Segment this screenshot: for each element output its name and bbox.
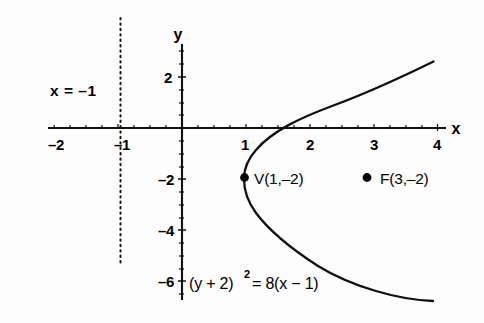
vertex-point [240, 173, 249, 182]
x-axis-label: x [452, 120, 461, 137]
y-tick-label-2: 2 [164, 69, 172, 86]
equation-lhs: (y + 2) [189, 275, 233, 292]
x-tick-label--2: –2 [48, 136, 64, 153]
x-tick-label-4: 4 [433, 136, 442, 153]
parabola-plot: y x –2 –1 1 2 3 4 2 –2 –4 –6 x = –1 V(1,… [0, 0, 484, 323]
x-tick-label-1: 1 [241, 136, 249, 153]
x-tick-label-3: 3 [370, 136, 378, 153]
equation-exponent: 2 [244, 268, 250, 280]
directrix-label: x = –1 [50, 82, 97, 99]
x-tick-label-2: 2 [306, 136, 314, 153]
y-tick-label--2: –2 [158, 171, 174, 188]
y-tick-label--6: –6 [158, 273, 174, 290]
x-tick-label--1: –1 [114, 136, 130, 153]
focus-point [363, 173, 372, 182]
y-axis-label: y [174, 26, 183, 43]
vertex-label: V(1,–2) [254, 170, 303, 187]
y-tick-label--4: –4 [158, 222, 175, 239]
equation-rhs: = 8(x − 1) [252, 275, 318, 292]
parabola-figure: y x –2 –1 1 2 3 4 2 –2 –4 –6 x = –1 V(1,… [0, 0, 484, 323]
focus-label: F(3,–2) [380, 170, 429, 187]
